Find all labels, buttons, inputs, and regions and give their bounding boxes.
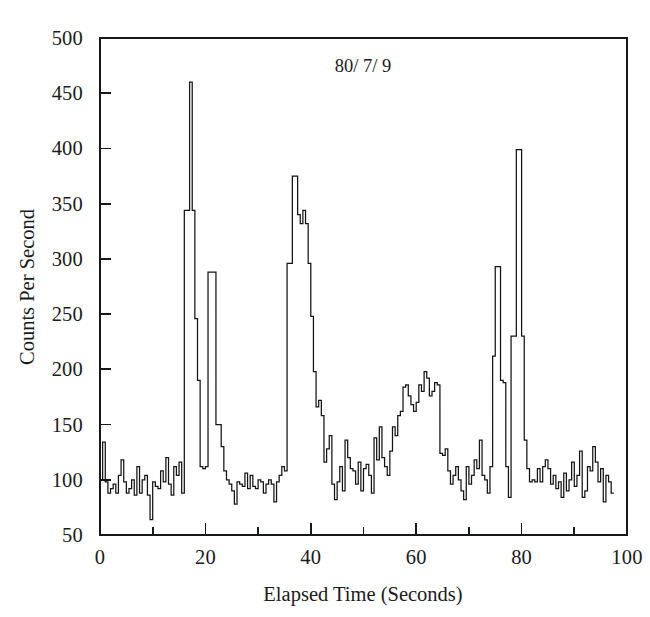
figure-container: 50100150200250300350400450500 0204060801… [0, 0, 650, 617]
x-tick-label-40: 40 [300, 546, 321, 568]
y-tick-label-450: 450 [52, 82, 83, 104]
y-tick-label-200: 200 [52, 358, 83, 380]
x-tick-label-20: 20 [195, 546, 216, 568]
x-tick-label-60: 60 [406, 546, 427, 568]
x-axis-ticks [153, 523, 575, 535]
y-tick-label-100: 100 [52, 469, 83, 491]
counts-per-second-trace [100, 82, 614, 519]
y-tick-label-300: 300 [52, 248, 83, 270]
y-tick-label-400: 400 [52, 137, 83, 159]
y-axis-title: Counts Per Second [16, 209, 38, 365]
y-tick-label-350: 350 [52, 193, 83, 215]
x-tick-label-80: 80 [511, 546, 532, 568]
counts-per-second-chart: 50100150200250300350400450500 0204060801… [0, 0, 650, 617]
plot-title: 80/ 7/ 9 [335, 56, 392, 76]
x-tick-label-0: 0 [95, 546, 105, 568]
y-tick-label-150: 150 [52, 414, 83, 436]
x-axis-title: Elapsed Time (Seconds) [263, 583, 462, 606]
y-tick-label-500: 500 [52, 27, 83, 49]
y-axis-tick-labels: 50100150200250300350400450500 [52, 27, 83, 546]
y-axis-ticks [100, 93, 111, 480]
x-tick-label-100: 100 [611, 546, 642, 568]
y-tick-label-50: 50 [62, 524, 83, 546]
x-axis-tick-labels: 020406080100 [95, 546, 643, 568]
y-tick-label-250: 250 [52, 303, 83, 325]
